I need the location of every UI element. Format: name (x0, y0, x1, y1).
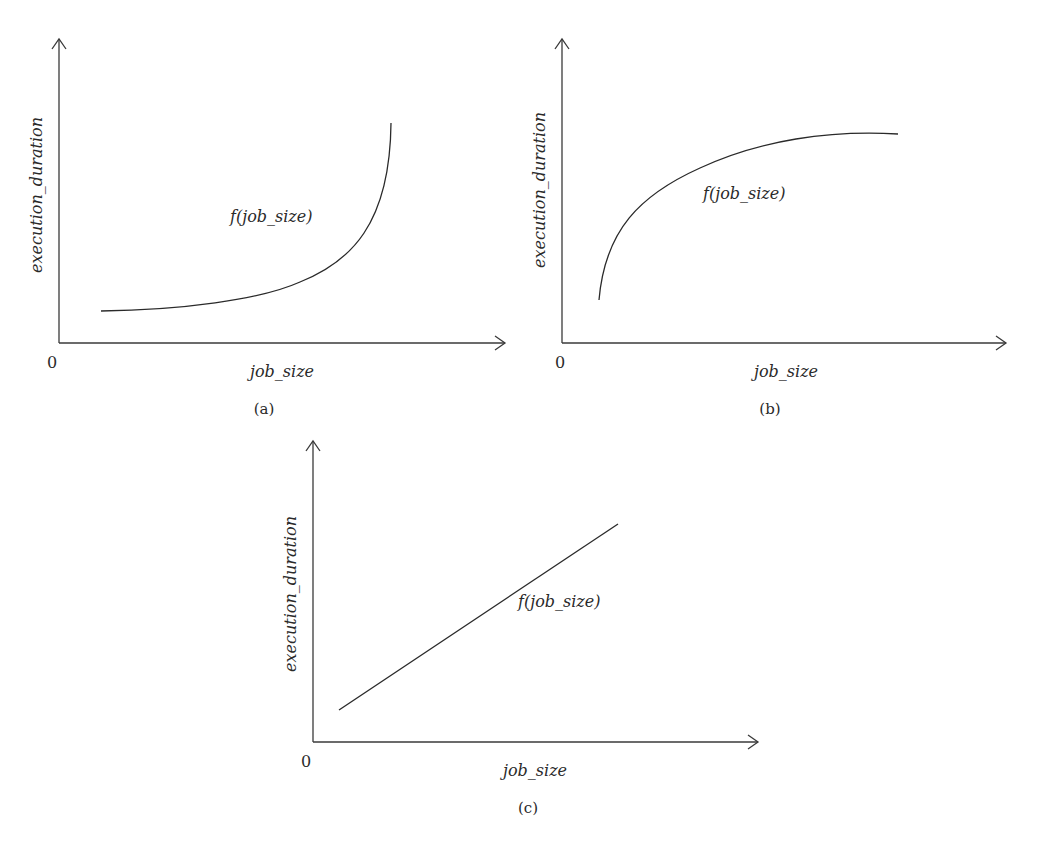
curve-label: f(job_size) (702, 184, 785, 203)
curve-b (599, 133, 898, 300)
origin-label: 0 (301, 752, 311, 771)
origin-label: 0 (47, 353, 57, 372)
curve-label: f(job_size) (517, 592, 600, 611)
y-axis-label: execution_duration (530, 112, 549, 268)
panel-a: f(job_size) 0 job_size execution_duratio… (27, 39, 505, 418)
curve-label: f(job_size) (229, 207, 312, 226)
x-axis-label: job_size (500, 761, 567, 780)
panel-caption: (b) (759, 400, 780, 418)
panel-caption: (c) (518, 799, 538, 817)
curve-c (339, 524, 618, 710)
y-axis-label: execution_duration (281, 516, 300, 672)
x-axis-label: job_size (247, 362, 314, 381)
origin-label: 0 (555, 353, 565, 372)
y-axis-label: execution_duration (27, 117, 46, 273)
panel-caption: (a) (254, 400, 275, 418)
x-axis-label: job_size (751, 362, 818, 381)
figure: f(job_size) 0 job_size execution_duratio… (0, 0, 1038, 844)
panel-c: f(job_size) 0 job_size execution_duratio… (281, 441, 758, 817)
panel-b: f(job_size) 0 job_size execution_duratio… (530, 39, 1006, 418)
